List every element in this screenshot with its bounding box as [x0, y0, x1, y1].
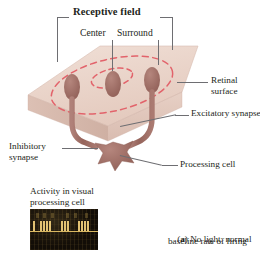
scope-spike	[78, 221, 80, 231]
scope-spike	[46, 221, 48, 231]
label-processing-cell: Processing cell	[180, 159, 235, 169]
leader-excitatory-synapse-tail	[175, 115, 189, 116]
label-inhibitory-synapse-line1: Inhibitory	[9, 141, 46, 151]
scope-baseline	[30, 231, 98, 232]
leader-receptive-field-left	[57, 17, 58, 62]
scope-spike	[84, 221, 86, 231]
leader-processing-cell-tail	[162, 165, 178, 166]
receptive-field-figure: Receptive field Center Surround Retinal …	[0, 0, 260, 261]
scope-spike	[49, 221, 51, 231]
leader-receptive-field-right	[172, 17, 173, 50]
scope-spike	[40, 221, 42, 231]
scope-spike	[87, 221, 89, 231]
caption-line2: baseline rate of firing	[168, 236, 247, 246]
leader-receptive-field-left-top	[57, 17, 69, 18]
label-surround: Surround	[117, 28, 153, 39]
label-retinal-surface-line1: Retinal	[211, 75, 238, 85]
scope-faint-mark	[74, 213, 77, 218]
scope-spike	[43, 221, 45, 231]
scope-spike	[64, 221, 66, 231]
label-activity-line1: Activity in visual	[30, 186, 94, 196]
leader-receptive-field-right-top	[160, 17, 172, 18]
leader-inhibitory-synapse	[62, 148, 98, 149]
label-inhibitory-synapse-line2: synapse	[9, 152, 38, 162]
page-title: Receptive field	[73, 6, 141, 18]
label-excitatory-synapse: Excitatory synapse	[191, 108, 260, 118]
activity-recording-panel	[30, 209, 98, 250]
scope-faint-mark	[43, 213, 46, 218]
scope-spike	[33, 221, 35, 231]
scope-spike	[61, 221, 63, 231]
scope-spike	[67, 221, 69, 231]
leader-center	[112, 40, 113, 71]
scope-faint-mark	[51, 213, 54, 218]
scope-faint-mark	[85, 213, 88, 218]
scope-faint-mark	[66, 213, 69, 218]
label-activity-line2: processing cell	[30, 197, 85, 207]
leader-retinal-surface	[177, 82, 208, 83]
scope-spike	[81, 221, 83, 231]
scope-faint-mark	[36, 213, 39, 218]
leader-surround	[158, 40, 159, 65]
label-retinal-surface-line2: surface	[211, 86, 238, 96]
label-center: Center	[80, 28, 106, 39]
